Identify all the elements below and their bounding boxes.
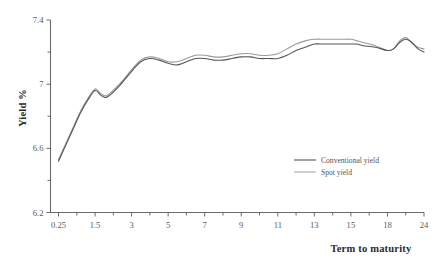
y-tick-label: 6.2 bbox=[33, 208, 44, 218]
x-tick-label: 1.5 bbox=[90, 220, 101, 230]
data-series-group bbox=[59, 38, 425, 162]
y-axis-title: Yield % bbox=[17, 89, 28, 127]
y-tick-label: 7.4 bbox=[33, 15, 44, 25]
y-tick-label: 6.6 bbox=[33, 143, 44, 153]
x-tick-label: 3 bbox=[129, 220, 133, 230]
y-axis-tick-labels: 6.26.677.4 bbox=[33, 15, 44, 218]
x-axis-ticks bbox=[59, 213, 425, 217]
x-tick-label: 13 bbox=[310, 220, 319, 230]
y-axis-ticks bbox=[47, 20, 51, 213]
chart-legend: Conventional yieldSpot yield bbox=[294, 156, 379, 177]
x-tick-label: 18 bbox=[383, 220, 392, 230]
x-tick-label: 5 bbox=[166, 220, 170, 230]
series-line-spot-yield bbox=[59, 38, 425, 160]
x-tick-label: 7 bbox=[203, 220, 208, 230]
chart-figure: 6.26.677.4 0.251.535791113151824 Yield %… bbox=[0, 0, 440, 269]
yield-curve-chart: 6.26.677.4 0.251.535791113151824 Yield %… bbox=[0, 0, 440, 269]
y-tick-label: 7 bbox=[39, 79, 44, 89]
x-tick-label: 0.25 bbox=[51, 220, 66, 230]
series-line-conventional-yield bbox=[59, 39, 425, 161]
x-tick-label: 15 bbox=[347, 220, 356, 230]
x-tick-label: 9 bbox=[239, 220, 243, 230]
legend-label: Spot yield bbox=[321, 168, 352, 177]
chart-axes bbox=[47, 20, 425, 217]
x-tick-label: 11 bbox=[274, 220, 282, 230]
x-axis-title: Term to maturity bbox=[331, 243, 413, 254]
x-tick-label: 24 bbox=[420, 220, 429, 230]
legend-label: Conventional yield bbox=[321, 156, 379, 165]
x-axis-tick-labels: 0.251.535791113151824 bbox=[51, 220, 429, 230]
